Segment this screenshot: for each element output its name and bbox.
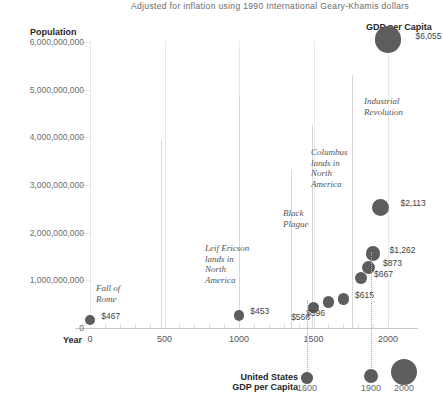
- annotation-line-text: lands in: [311, 158, 348, 169]
- data-point-label: $596: [306, 308, 325, 318]
- data-point-bubble[interactable]: [85, 315, 96, 326]
- data-point-bubble[interactable]: [355, 272, 367, 284]
- data-point-label: $667: [374, 269, 393, 279]
- legend-title-line1: United States: [198, 372, 298, 382]
- gridline-vertical: [388, 41, 389, 328]
- annotation-line-text: America: [205, 275, 249, 286]
- annotation-columbus: Columbuslands inNorthAmerica: [311, 147, 348, 189]
- data-point-bubble[interactable]: [366, 246, 381, 261]
- y-axis-line: [90, 42, 91, 328]
- annotation-line: [239, 95, 240, 328]
- annotation-line-text: North: [311, 168, 348, 179]
- y-tick-label: 6,000,000,000: [0, 37, 84, 47]
- y-tick-label: 4,000,000,000: [0, 132, 84, 142]
- data-point-label: $6,055: [415, 31, 441, 41]
- data-point-label: $453: [250, 306, 269, 316]
- annotation-line-text: Columbus: [311, 147, 348, 158]
- chart-canvas: Adjusted for inflation using 1990 Intern…: [0, 0, 443, 400]
- x-tick-label: 1000: [214, 334, 264, 344]
- legend-bubble: [391, 359, 418, 386]
- y-tick-label: 1,000,000,000: [0, 275, 84, 285]
- annotation-line-text: North: [205, 264, 249, 275]
- data-point-label: $2,113: [400, 198, 425, 208]
- y-tick-label: 5,000,000,000: [0, 85, 84, 95]
- annotation-line: [352, 75, 353, 328]
- annotation-line-text: Plague: [283, 219, 309, 230]
- data-point-bubble[interactable]: [323, 296, 334, 307]
- y-tick-label: 2,000,000,000: [0, 228, 84, 238]
- data-point-bubble[interactable]: [362, 261, 375, 274]
- legend-connector-line: [307, 300, 308, 376]
- annotation-black-plague: BlackPlague: [283, 208, 309, 229]
- annotation-line-text: Leif Ericson: [205, 243, 249, 254]
- y-tick-label: 3,000,000,000: [0, 180, 84, 190]
- x-tick-label: 1500: [289, 334, 339, 344]
- annotation-line-text: Rome: [96, 294, 120, 305]
- annotation-line-text: Fall of: [96, 283, 120, 294]
- legend-bubble: [301, 372, 312, 383]
- data-point-label: $873: [383, 258, 402, 268]
- legend-bubble: [364, 369, 379, 384]
- data-point-bubble[interactable]: [375, 26, 402, 53]
- data-point-bubble[interactable]: [234, 310, 245, 321]
- annotation-fall-of-rome: Fall ofRome: [96, 283, 120, 304]
- x-tick-label: 500: [140, 334, 190, 344]
- legend-title-line2: GDP per Capita: [198, 382, 298, 392]
- data-point-bubble[interactable]: [372, 199, 390, 217]
- data-point-label: $467: [101, 311, 120, 321]
- annotation-line: [291, 170, 292, 328]
- y-tick-label: 0: [0, 323, 84, 333]
- legend-title: United StatesGDP per Capita: [198, 372, 298, 392]
- annotation-line-text: America: [311, 179, 348, 190]
- annotation-line: [161, 140, 162, 328]
- data-point-bubble[interactable]: [338, 293, 350, 305]
- annotation-line-text: Revolution: [364, 107, 403, 118]
- annotation-leif-ericson: Leif Ericsonlands inNorthAmerica: [205, 243, 249, 285]
- x-axis-title: Year: [63, 335, 82, 345]
- gridline-vertical: [165, 41, 166, 328]
- data-point-label: $1,262: [389, 245, 415, 255]
- annotation-industrial-revolution: IndustrialRevolution: [364, 96, 403, 117]
- annotation-line-text: Black: [283, 208, 309, 219]
- y-axis-title: Population: [30, 27, 77, 37]
- annotation-line-text: lands in: [205, 254, 249, 265]
- legend-connector-line: [371, 252, 372, 368]
- legend-tick-label: 2000: [384, 383, 424, 393]
- annotation-line-text: Industrial: [364, 96, 403, 107]
- x-axis-line: [75, 328, 418, 329]
- chart-subtitle: Adjusted for inflation using 1990 Intern…: [131, 1, 409, 11]
